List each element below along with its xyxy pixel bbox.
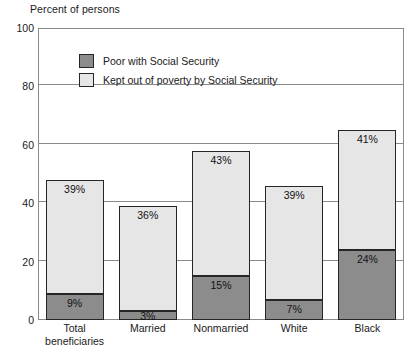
y-tick-label: 20 — [0, 256, 34, 268]
y-tick-label: 40 — [0, 197, 34, 209]
bar-value-label: 36% — [137, 210, 158, 221]
x-tick-label: Married — [111, 322, 184, 335]
bar-value-label: 3% — [140, 311, 155, 322]
chart-title: Percent of persons — [30, 3, 120, 15]
bar-group[interactable]: 24%41% — [338, 130, 396, 320]
bar-segment-kept-out-of-poverty[interactable]: 39% — [265, 186, 323, 300]
x-tick-label-line: Total — [64, 322, 86, 334]
x-axis: TotalbeneficiariesMarriedNonmarriedWhite… — [38, 322, 404, 360]
bar-group[interactable]: 7%39% — [265, 186, 323, 320]
x-tick-label: Nonmarried — [184, 322, 257, 335]
x-tick-label: White — [258, 322, 331, 335]
x-tick-label: Totalbeneficiaries — [38, 322, 111, 348]
y-tick-label: 80 — [0, 80, 34, 92]
bar-group[interactable]: 9%39% — [46, 180, 104, 320]
stacked-bar-chart: Percent of persons 020406080100 9%39%3%3… — [0, 0, 413, 360]
y-tick-label: 60 — [0, 139, 34, 151]
bar-segment-poor-with-social-security[interactable]: 24% — [338, 250, 396, 320]
x-tick-label-line: Married — [130, 322, 166, 334]
bar-segment-kept-out-of-poverty[interactable]: 41% — [338, 130, 396, 250]
x-tick-label-line: beneficiaries — [38, 335, 111, 348]
y-tick-label: 0 — [0, 314, 34, 326]
bar-segment-poor-with-social-security[interactable]: 9% — [46, 294, 104, 320]
y-tick-label: 100 — [0, 22, 34, 34]
chart-legend: Poor with Social SecurityKept out of pov… — [79, 52, 278, 90]
x-tick-label-line: White — [281, 322, 308, 334]
bar-value-label: 43% — [210, 155, 231, 166]
legend-label: Poor with Social Security — [103, 55, 219, 67]
bar-value-label: 9% — [67, 298, 82, 309]
bar-value-label: 24% — [357, 254, 378, 265]
y-axis: 020406080100 — [0, 28, 34, 320]
bar-group[interactable]: 3%36% — [119, 206, 177, 320]
bar-segment-poor-with-social-security[interactable]: 7% — [265, 300, 323, 320]
x-tick-label: Black — [331, 322, 404, 335]
bar-value-label: 39% — [284, 190, 305, 201]
legend-swatch-light — [79, 73, 94, 87]
bar-segment-poor-with-social-security[interactable]: 15% — [192, 276, 250, 320]
bar-value-label: 7% — [287, 304, 302, 315]
bar-group[interactable]: 15%43% — [192, 151, 250, 320]
legend-item[interactable]: Poor with Social Security — [79, 52, 278, 69]
bar-segment-kept-out-of-poverty[interactable]: 39% — [46, 180, 104, 294]
x-tick-label-line: Black — [355, 322, 381, 334]
bar-segment-poor-with-social-security[interactable]: 3% — [119, 311, 177, 320]
x-tick-label-line: Nonmarried — [194, 322, 249, 334]
bar-value-label: 41% — [357, 134, 378, 145]
bar-value-label: 15% — [210, 280, 231, 291]
bar-segment-kept-out-of-poverty[interactable]: 43% — [192, 151, 250, 277]
bar-value-label: 39% — [64, 184, 85, 195]
legend-item[interactable]: Kept out of poverty by Social Security — [79, 71, 278, 88]
bar-segment-kept-out-of-poverty[interactable]: 36% — [119, 206, 177, 311]
legend-label: Kept out of poverty by Social Security — [103, 74, 278, 86]
legend-swatch-dark — [79, 54, 94, 68]
